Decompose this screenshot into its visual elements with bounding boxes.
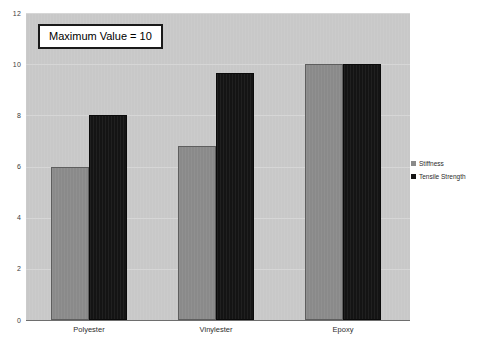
bar-vinylester-stiffness	[178, 146, 216, 320]
x-tick-label-epoxy: Epoxy	[283, 326, 403, 334]
annotation-maximum-value: Maximum Value = 10	[38, 24, 163, 49]
gridline-12	[26, 13, 410, 14]
bar-texture	[179, 147, 215, 319]
bar-epoxy-tensile-strength	[343, 64, 381, 320]
bar-texture	[90, 116, 126, 319]
chart-legend: StiffnessTensile Strength	[411, 158, 479, 184]
legend-label: Tensile Strength	[419, 173, 466, 180]
x-axis-line	[26, 320, 410, 321]
y-tick-label-0: 0	[3, 317, 21, 324]
legend-label: Stiffness	[419, 160, 444, 167]
bar-vinylester-tensile-strength	[216, 73, 254, 320]
y-tick-label-10: 10	[3, 61, 21, 68]
plot-area	[26, 13, 410, 320]
x-tick-label-polyester: Polyester	[29, 326, 149, 334]
legend-swatch-icon	[411, 174, 416, 179]
legend-entry-tensile-strength: Tensile Strength	[411, 171, 479, 182]
y-tick-label-6: 6	[3, 163, 21, 170]
bar-polyester-stiffness	[51, 167, 89, 321]
legend-entry-stiffness: Stiffness	[411, 158, 479, 169]
y-tick-label-4: 4	[3, 214, 21, 221]
bar-texture	[52, 168, 88, 320]
bar-epoxy-stiffness	[305, 64, 343, 320]
bar-polyester-tensile-strength	[89, 115, 127, 320]
x-tick-label-vinylester: Vinylester	[156, 326, 276, 334]
y-tick-label-2: 2	[3, 265, 21, 272]
y-tick-label-12: 12	[3, 10, 21, 17]
y-tick-label-8: 8	[3, 112, 21, 119]
chart-figure: 024681012 PolyesterVinylesterEpoxy Maxim…	[0, 0, 481, 345]
bar-texture	[306, 65, 342, 319]
legend-swatch-icon	[411, 161, 416, 166]
bar-texture	[344, 65, 380, 319]
bar-texture	[217, 74, 253, 319]
